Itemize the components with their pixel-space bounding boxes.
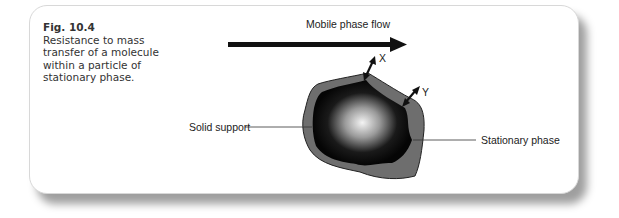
stationary-phase-label: Stationary phase — [481, 134, 560, 146]
solid-support-label: Solid support — [189, 121, 250, 133]
x-label: X — [379, 52, 386, 64]
diagram: Mobile phase flow X Y Solid support Stat… — [0, 0, 619, 218]
mobile-phase-flow-label: Mobile phase flow — [306, 18, 390, 30]
mobile-phase-flow-arrow — [228, 37, 407, 52]
y-label: Y — [422, 86, 429, 98]
